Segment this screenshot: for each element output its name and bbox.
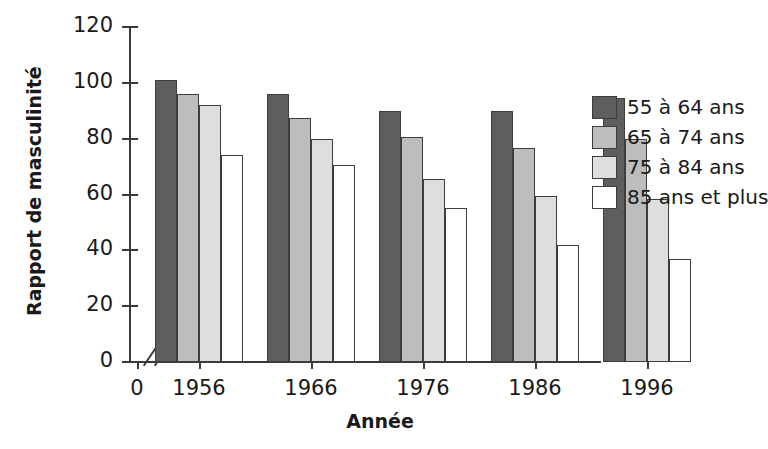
y-tick-label: 80 [86, 125, 113, 149]
legend-item[interactable]: 85 ans et plus [592, 182, 764, 212]
legend-swatch [592, 126, 617, 149]
y-tick-label: 60 [86, 181, 113, 205]
bars-layer [131, 20, 601, 362]
bar [177, 94, 199, 362]
bar [401, 137, 423, 362]
x-tick-label: 1966 [271, 376, 351, 400]
y-tick-label: 120 [73, 13, 113, 37]
y-tick-label: 100 [73, 69, 113, 93]
bar [311, 139, 333, 362]
bar [535, 196, 557, 362]
x-tick-label: 1986 [495, 376, 575, 400]
x-axis-title: Année [155, 410, 605, 432]
bar [155, 80, 177, 362]
x-tick [535, 361, 537, 369]
legend-item[interactable]: 65 à 74 ans [592, 122, 764, 152]
bar [557, 245, 579, 362]
y-axis-title: Rapport de masculinité [23, 76, 45, 316]
legend-label: 75 à 84 ans [627, 156, 745, 178]
legend-label: 65 à 74 ans [627, 126, 745, 148]
bar [491, 111, 513, 362]
legend-item[interactable]: 55 à 64 ans [592, 92, 764, 122]
bar [221, 155, 243, 362]
bar [445, 208, 467, 362]
x-tick [311, 361, 313, 369]
y-tick-label: 0 [100, 348, 113, 372]
legend: 55 à 64 ans65 à 74 ans75 à 84 ans85 ans … [592, 92, 764, 212]
x-tick-label: 1976 [383, 376, 463, 400]
bar [289, 118, 311, 362]
x-tick [423, 361, 425, 369]
y-tick-label: 20 [86, 292, 113, 316]
legend-swatch [592, 186, 617, 209]
bar [423, 179, 445, 362]
legend-label: 85 ans et plus [627, 186, 768, 208]
legend-item[interactable]: 75 à 84 ans [592, 152, 764, 182]
x-tick [199, 361, 201, 369]
bar [647, 199, 669, 362]
plot-area: 020406080100120 019561966197619861996 [129, 20, 601, 363]
legend-swatch [592, 156, 617, 179]
legend-swatch [592, 96, 617, 119]
bar [513, 148, 535, 362]
y-tick-label: 40 [86, 236, 113, 260]
bar [379, 111, 401, 362]
x-tick-label: 1996 [607, 376, 687, 400]
bar [333, 165, 355, 362]
bar [669, 259, 691, 362]
x-tick [647, 361, 649, 369]
legend-label: 55 à 64 ans [627, 96, 745, 118]
bar [267, 94, 289, 362]
bar [199, 105, 221, 362]
x-tick-label: 1956 [159, 376, 239, 400]
x-tick [137, 361, 139, 369]
